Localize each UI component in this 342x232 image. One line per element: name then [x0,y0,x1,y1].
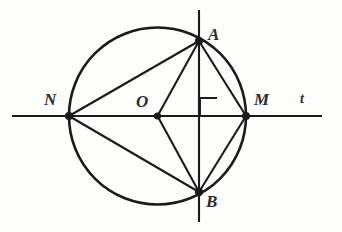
label-line-t: t [300,92,304,106]
label-point-b: B [206,193,217,210]
right-angle-marker [200,98,217,116]
vertex-m-dot [242,112,250,120]
segment-n-a [69,41,199,116]
center-o-dot [154,112,161,119]
segment-n-b [69,116,199,192]
geometry-canvas [0,0,342,232]
label-point-n: N [44,91,56,108]
segment-b-m [199,116,246,192]
label-point-m: M [254,91,269,108]
label-center-o: O [136,93,148,110]
geometry-figure: A B N M O t [0,0,342,232]
vertex-b-dot [195,188,203,196]
vertex-n-dot [65,112,73,120]
label-point-a: A [208,26,219,43]
vertex-a-dot [195,37,203,45]
